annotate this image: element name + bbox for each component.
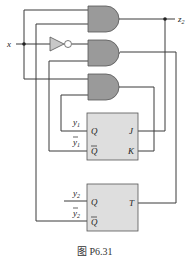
- junction-x: [22, 42, 26, 46]
- and-gate-2: [88, 40, 119, 66]
- circuit-diagram: Q Q J K y1 y1 Q Q T y2 y2 x z2 图 P6.31: [0, 0, 191, 264]
- inverter-bubble: [65, 41, 72, 48]
- wire-y2bar-gate1: [36, 24, 88, 221]
- and-gate-3: [88, 74, 119, 100]
- wire-z2-J: [138, 19, 165, 131]
- label-y2bar: y2: [72, 208, 80, 219]
- label-y1: y1: [72, 117, 80, 128]
- label-y1bar: y1: [72, 137, 80, 148]
- figure-caption: 图 P6.31: [77, 246, 113, 257]
- label-z2: z2: [177, 14, 185, 25]
- and-gate-1: [88, 6, 119, 32]
- wire-y1bar-gate2: [49, 61, 88, 151]
- label-x: x: [6, 39, 11, 49]
- jk-pin-qbar: Q: [91, 146, 98, 156]
- inverter-icon: [50, 37, 64, 51]
- junction-z2: [163, 17, 167, 21]
- jk-pin-q: Q: [91, 126, 98, 136]
- label-y2: y2: [72, 188, 80, 199]
- t-pin-qbar: Q: [91, 217, 98, 227]
- jk-pin-k: K: [127, 146, 135, 156]
- t-pin-q: Q: [91, 197, 98, 207]
